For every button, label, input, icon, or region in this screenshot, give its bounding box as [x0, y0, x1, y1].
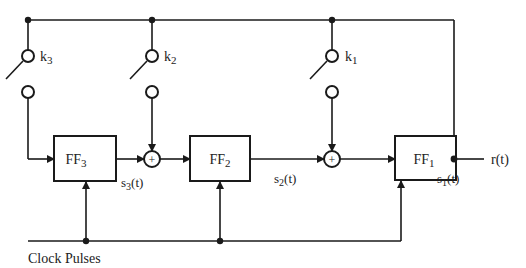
adder-1: + [144, 151, 190, 167]
s1-label: s1(t) [437, 171, 459, 188]
output-label: r(t) [491, 152, 509, 168]
s2-label: s2(t) [274, 171, 296, 188]
clock-label: Clock Pulses [28, 251, 101, 266]
plus-icon: + [329, 153, 336, 167]
switch-label-k2: k2 [164, 49, 177, 66]
junction-dot [217, 238, 223, 244]
flip-flop-ff2: FF2 s2(t) [190, 136, 324, 188]
lfsr-diagram: k3 k2 k1 FF3 s3(t) + FF2 s2(t) [0, 0, 526, 268]
switch-k2: k2 [130, 20, 177, 151]
flip-flop-ff3: FF3 s3(t) [54, 136, 144, 192]
flip-flop-ff1: FF1 s1(t) r(t) [395, 136, 509, 188]
junction-dot [83, 238, 89, 244]
switch-k1: k1 [310, 20, 358, 151]
plus-icon: + [149, 153, 156, 167]
output-junction-dot [451, 156, 458, 163]
switch-k3: k3 [6, 20, 54, 159]
s3-label: s3(t) [121, 175, 143, 192]
clock-bus: Clock Pulses [28, 181, 401, 266]
switch-label-k3: k3 [40, 49, 53, 66]
switch-label-k1: k1 [345, 49, 358, 66]
adder-2: + [324, 151, 395, 167]
